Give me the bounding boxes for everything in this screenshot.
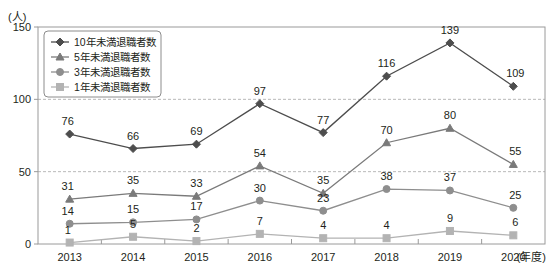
data-label-s4-2013: 1: [65, 224, 71, 236]
data-label-s3-2015: 17: [190, 200, 202, 212]
line-chart: 0501001502013201420152016201720182019202…: [0, 0, 559, 267]
x-axis-label-2013: 2013: [57, 251, 81, 263]
series-2-marker-2020: [509, 160, 517, 167]
chart-container: (人) 050100150201320142015201620172018201…: [0, 0, 559, 267]
data-label-s1-2018: 116: [378, 57, 396, 69]
data-label-s3-2014: 15: [127, 203, 139, 215]
series-1-marker-2014: [129, 145, 137, 153]
data-label-s1-2019: 139: [441, 24, 459, 36]
data-label-s1-2014: 66: [127, 130, 139, 142]
data-label-s4-2017: 4: [320, 219, 326, 231]
y-tick-label-150: 150: [13, 21, 31, 33]
legend-marker-3: [57, 69, 64, 76]
series-1-marker-2019: [446, 39, 454, 47]
x-axis-label-2017: 2017: [311, 251, 335, 263]
x-axis-label-2014: 2014: [121, 251, 145, 263]
x-axis-label-2018: 2018: [374, 251, 398, 263]
series-3-marker-2018: [383, 186, 390, 193]
legend-label-2[interactable]: 5年未満退職者数: [74, 51, 151, 63]
data-label-s1-2020: 109: [506, 67, 524, 79]
y-tick-label-0: 0: [25, 238, 31, 250]
y-tick-label-50: 50: [19, 166, 31, 178]
data-label-s4-2019: 9: [447, 212, 453, 224]
data-label-s2-2014: 35: [127, 174, 139, 186]
series-1-marker-2015: [192, 140, 200, 148]
series-4-marker-2020: [510, 232, 517, 239]
x-axis-unit-label: (年度): [517, 250, 546, 263]
series-3-marker-2017: [320, 207, 327, 214]
data-label-s2-2020: 55: [509, 145, 521, 157]
data-label-s2-2015: 33: [190, 177, 202, 189]
y-tick-label-100: 100: [13, 93, 31, 105]
data-label-s2-2017: 35: [317, 174, 329, 186]
legend-label-4[interactable]: 1年未満退職者数: [74, 81, 151, 93]
data-label-s3-2016: 30: [254, 182, 266, 194]
series-4-marker-2016: [256, 230, 263, 237]
legend-label-1[interactable]: 10年未満退職者数: [74, 36, 157, 48]
data-label-s3-2013: 14: [62, 205, 74, 217]
chart-legend: 10年未満退職者数5年未満退職者数3年未満退職者数1年未満退職者数: [44, 31, 161, 97]
data-label-s3-2017: 23: [317, 192, 329, 204]
data-label-s2-2013: 31: [62, 180, 74, 192]
series-4-marker-2018: [383, 235, 390, 242]
data-label-s3-2020: 25: [509, 189, 521, 201]
data-label-s1-2013: 76: [62, 115, 74, 127]
series-1-marker-2013: [66, 130, 74, 138]
series-1-marker-2016: [256, 100, 264, 108]
legend-label-3[interactable]: 3年未満退職者数: [74, 66, 151, 78]
data-label-s3-2019: 37: [444, 171, 456, 183]
series-4-marker-2013: [66, 239, 73, 246]
data-label-s4-2020: 6: [512, 216, 518, 228]
x-axis-label-2015: 2015: [184, 251, 208, 263]
series-1-marker-2020: [509, 82, 517, 90]
data-label-s4-2014: 5: [130, 218, 136, 230]
data-label-s1-2016: 97: [254, 85, 266, 97]
x-axis-label-2019: 2019: [438, 251, 462, 263]
series-3-marker-2020: [510, 204, 517, 211]
series-2-marker-2016: [256, 162, 264, 169]
x-axis-label-2016: 2016: [248, 251, 272, 263]
data-label-s3-2018: 38: [380, 170, 392, 182]
legend-marker-4: [57, 84, 64, 91]
data-label-s2-2018: 70: [380, 124, 392, 136]
series-4-marker-2015: [193, 238, 200, 245]
data-label-s4-2015: 2: [193, 222, 199, 234]
series-4-marker-2014: [130, 233, 137, 240]
series-2-marker-2019: [446, 124, 454, 131]
series-4-marker-2019: [446, 227, 453, 234]
series-4-marker-2017: [320, 235, 327, 242]
data-label-s4-2016: 7: [257, 215, 263, 227]
data-label-s1-2017: 77: [317, 114, 329, 126]
data-label-s1-2015: 69: [190, 125, 202, 137]
data-label-s4-2018: 4: [384, 219, 390, 231]
data-label-s2-2016: 54: [254, 147, 266, 159]
data-label-s2-2019: 80: [444, 109, 456, 121]
series-3-marker-2016: [256, 197, 263, 204]
series-3-marker-2019: [446, 187, 453, 194]
